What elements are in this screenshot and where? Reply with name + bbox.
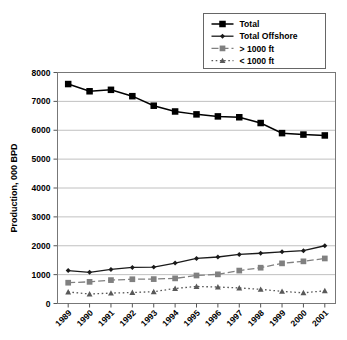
y-tick-label: 6000: [32, 125, 51, 135]
data-point-marker: [65, 81, 72, 88]
data-point-marker: [215, 271, 221, 277]
data-point-marker: [193, 111, 200, 118]
y-axis-title: Production, 000 BPD: [9, 143, 19, 233]
data-point-marker: [129, 290, 135, 295]
data-point-marker: [258, 286, 264, 291]
data-point-marker: [151, 265, 156, 270]
series-1000-ft: [65, 284, 328, 297]
x-tick-label: 1992: [117, 308, 138, 329]
x-tick-label: 1999: [267, 308, 288, 329]
data-point-marker: [322, 256, 328, 262]
data-point-marker: [215, 255, 220, 260]
data-point-marker: [108, 277, 114, 283]
data-point-marker: [301, 258, 307, 264]
data-point-marker: [151, 289, 157, 294]
data-point-marker: [300, 131, 307, 138]
data-point-marker: [87, 270, 92, 275]
y-tick-label: 2000: [32, 241, 51, 251]
data-point-marker: [65, 289, 71, 294]
x-tick-label: 1989: [53, 308, 74, 329]
data-point-marker: [300, 290, 306, 295]
x-tick-label: 1990: [75, 308, 96, 329]
data-point-marker: [194, 273, 200, 279]
data-point-marker: [87, 291, 93, 296]
y-tick-label: 0: [46, 299, 51, 309]
x-tick-label: 1995: [181, 308, 202, 329]
x-tick-label: 1993: [139, 308, 160, 329]
data-point-marker: [219, 21, 226, 28]
y-tick-label: 5000: [32, 154, 51, 164]
data-point-marker: [236, 114, 243, 121]
y-tick-label: 4000: [32, 183, 51, 193]
data-point-marker: [215, 113, 222, 120]
y-tick-label: 1000: [32, 270, 51, 280]
data-point-marker: [65, 280, 71, 286]
data-point-marker: [87, 279, 93, 285]
x-tick-label: 1994: [160, 308, 181, 329]
series-total-offshore: [66, 243, 328, 275]
chart-canvas: 0100020003000400050006000700080001989199…: [0, 0, 347, 340]
data-point-marker: [172, 108, 179, 115]
data-point-marker: [279, 130, 286, 137]
data-point-marker: [108, 267, 113, 272]
x-tick-label: 1991: [96, 308, 117, 329]
data-point-marker: [220, 46, 226, 52]
x-tick-label: 2001: [310, 308, 331, 329]
data-point-marker: [130, 265, 135, 270]
x-tick-label: 1998: [246, 308, 267, 329]
data-point-marker: [173, 261, 178, 266]
data-point-marker: [108, 290, 114, 295]
data-point-marker: [258, 265, 264, 271]
data-point-marker: [86, 88, 93, 95]
production-line-chart: 0100020003000400050006000700080001989199…: [0, 0, 347, 340]
data-point-marker: [66, 268, 71, 273]
data-point-marker: [151, 276, 157, 282]
data-point-marker: [150, 102, 157, 109]
y-tick-label: 7000: [32, 96, 51, 106]
data-point-marker: [258, 251, 263, 256]
x-tick-label: 2000: [288, 308, 309, 329]
legend-label: Total Offshore: [240, 31, 298, 41]
data-point-marker: [194, 256, 199, 261]
data-point-marker: [322, 132, 329, 139]
x-tick-label: 1996: [203, 308, 224, 329]
legend-label: Total: [240, 19, 260, 29]
series-line: [68, 84, 325, 135]
data-point-marker: [237, 252, 242, 257]
data-point-marker: [129, 93, 136, 100]
data-point-marker: [280, 249, 285, 254]
legend-label: > 1000 ft: [240, 44, 275, 54]
data-point-marker: [129, 276, 135, 282]
data-point-marker: [172, 276, 178, 282]
data-point-marker: [322, 243, 327, 248]
data-point-marker: [108, 87, 115, 94]
chart-legend: TotalTotal Offshore> 1000 ft< 1000 ft: [204, 14, 326, 69]
data-point-marker: [236, 268, 242, 274]
data-point-marker: [322, 288, 328, 293]
legend-label: < 1000 ft: [240, 56, 275, 66]
data-point-marker: [279, 288, 285, 293]
y-tick-label: 3000: [32, 212, 51, 222]
data-point-marker: [257, 120, 264, 127]
data-point-marker: [301, 248, 306, 253]
data-point-marker: [279, 261, 285, 267]
x-tick-label: 1997: [224, 308, 245, 329]
y-tick-label: 8000: [32, 68, 51, 78]
